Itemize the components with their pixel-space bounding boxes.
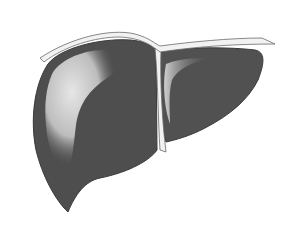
left-lobe — [158, 48, 263, 142]
right-lobe — [33, 40, 157, 212]
liver-illustration — [0, 0, 293, 238]
liver-drawing — [0, 0, 293, 238]
